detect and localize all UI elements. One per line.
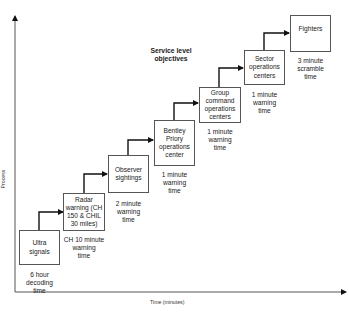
step-caption-sector-operations: 1 minute warning time [239,91,290,116]
step-caption-observer-sightings: 2 minute warning time [103,200,154,225]
y-axis-label: Process [0,170,6,189]
step-box-group-command: Group command operations centers [199,87,241,123]
step-box-ultra-signals: Ultra signals [19,230,60,265]
step-caption-ultra-signals: 6 hour decoding time [14,271,65,296]
step-box-bentley-priory: Bentley Priory operations center [154,120,195,166]
step-box-fighters: Fighters [290,15,331,52]
step-box-sector-operations: Sector operations centers [244,50,285,85]
step-caption-fighters: 3 minute scramble time [285,57,336,82]
diagram-title: Service level objectives [138,47,204,64]
step-caption-bentley-priory: 1 minute warning time [149,171,200,196]
step-caption-group-command: 1 minute warning time [194,128,246,153]
x-axis-label: Time (minutes) [150,299,184,305]
step-box-radar-warning: Radar warning (CH 150 & CHIL 30 miles) [63,193,105,231]
step-caption-radar-warning: CH 10 minute warning time [58,236,110,261]
step-box-observer-sightings: Observer sightings [108,155,149,193]
